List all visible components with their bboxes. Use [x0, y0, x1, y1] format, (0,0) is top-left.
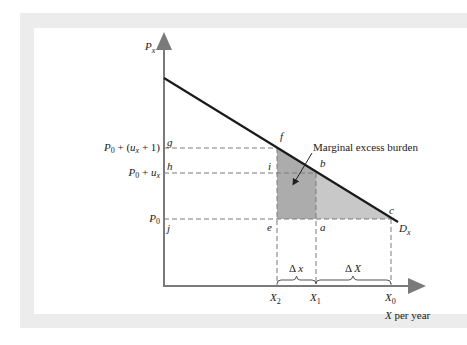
excess-burden-diagram: Px P0 + (ux + 1) P0 + ux P0 g h j f b i … — [0, 0, 467, 345]
point-i: i — [268, 160, 271, 172]
point-f: f — [280, 130, 285, 142]
marginal-excess-burden-label: Marginal excess burden — [313, 141, 418, 153]
y-tick-p0-ux-1: P0 + (ux + 1) — [103, 141, 160, 155]
marginal-burden-area — [277, 147, 316, 219]
y-tick-p0-ux: P0 + ux — [127, 166, 160, 180]
point-h: h — [167, 160, 173, 172]
delta-x-small-label: Δ x — [289, 262, 303, 274]
x-axis-label: X per year — [384, 309, 431, 321]
point-e: e — [267, 221, 272, 233]
x-tick-x0: X0 — [384, 291, 396, 306]
point-c: c — [389, 204, 394, 216]
y-tick-p0: P0 — [148, 212, 160, 226]
point-j: j — [165, 222, 170, 234]
demand-label: Dx — [398, 222, 411, 237]
delta-x-big-label: Δ X — [345, 262, 362, 274]
brace-delta-x-big — [316, 276, 391, 284]
point-g: g — [167, 136, 173, 148]
brace-delta-x-small — [277, 276, 316, 284]
point-b: b — [320, 157, 326, 169]
x-tick-x1: X1 — [309, 291, 321, 306]
point-a: a — [320, 221, 326, 233]
x-tick-x2: X2 — [269, 291, 281, 306]
y-axis-label: Px — [144, 40, 156, 55]
